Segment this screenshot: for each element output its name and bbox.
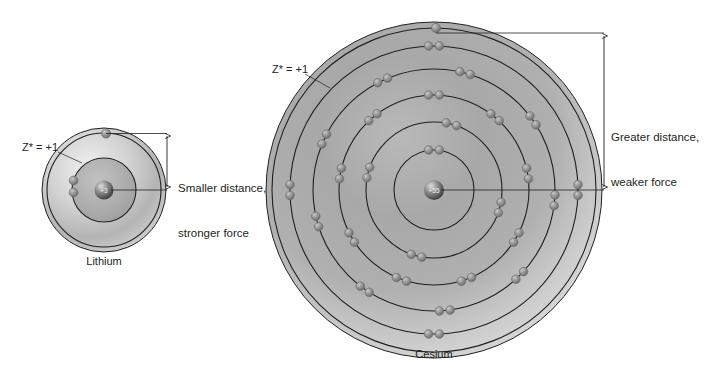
cesium-electron [356,282,365,291]
cesium-electron [424,146,433,155]
cesium-electron [457,277,466,286]
cesium-electron [456,67,465,76]
cesium-annotation: Greater distance, weaker force [611,100,699,205]
cesium-electron [417,253,426,262]
cesium-electron [373,109,382,118]
cesium-electron [522,164,531,173]
lithium-annotation-line-2: stronger force [178,226,266,241]
cesium-electron [383,74,392,83]
cesium-electron [337,164,346,173]
cesium-electron [442,119,451,128]
cesium-electron [574,180,583,189]
cesium-electron [452,121,461,130]
cesium-electron [524,175,533,184]
cesium-electron [345,229,354,238]
cesium-electron [495,116,504,125]
cesium-electron [392,273,401,282]
cesium-electron [532,121,541,130]
lithium-zstar-label: Z* = +1 [22,141,58,153]
cesium-electron [519,267,528,276]
cesium-electron [424,91,433,100]
cesium-electron [350,238,359,247]
cesium-electron [373,78,382,87]
cesium-electron [365,116,374,125]
cesium-nucleus-charge: +55 [428,187,439,194]
cesium-electron [286,180,295,189]
cesium-valence-electron [431,23,440,32]
cesium-electron [424,330,433,339]
cesium-electron [550,201,559,210]
cesium-electron [512,275,521,284]
cesium-electron [551,191,560,200]
cesium-annotation-line-2: weaker force [611,175,699,190]
cesium-electron [318,140,327,149]
cesium-electron [494,208,503,217]
cesium-electron [509,238,518,247]
cesium-electron [467,273,476,282]
cesium-electron [487,109,496,118]
cesium-electron [402,277,411,286]
cesium-electron [446,306,455,315]
cesium-electron [363,173,372,182]
lithium-label: Lithium [54,255,154,267]
cesium-electron [424,42,433,51]
cesium-electron [574,191,583,200]
cesium-annotation-line-1: Greater distance, [611,130,699,145]
lithium-nucleus-charge: +3 [100,187,108,194]
cesium-electron [515,229,524,238]
lithium-electron [69,188,78,197]
cesium-electron [435,330,444,339]
cesium-electron [435,42,444,51]
cesium-electron [311,212,320,221]
cesium-electron [322,130,331,139]
cesium-electron [435,146,444,155]
cesium-zstar-label: Z* = +1 [272,63,308,75]
lithium-electron [69,176,78,185]
cesium-electron [407,250,416,259]
cesium-electron [365,288,374,297]
cesium-electron [526,112,535,121]
lithium-annotation-line-1: Smaller distance, [178,181,266,196]
cesium-electron [497,198,506,207]
cesium-label: Cesium [384,348,484,360]
cesium-electron [286,191,295,200]
cesium-electron [466,70,475,79]
cesium-electron [365,163,374,172]
lithium-annotation: Smaller distance, stronger force [178,151,266,256]
cesium-electron [335,175,344,184]
atomic-radius-comparison-diagram: +3 +55 [0,0,709,378]
cesium-electron [435,307,444,316]
cesium-electron [435,91,444,100]
cesium-electron [314,222,323,231]
